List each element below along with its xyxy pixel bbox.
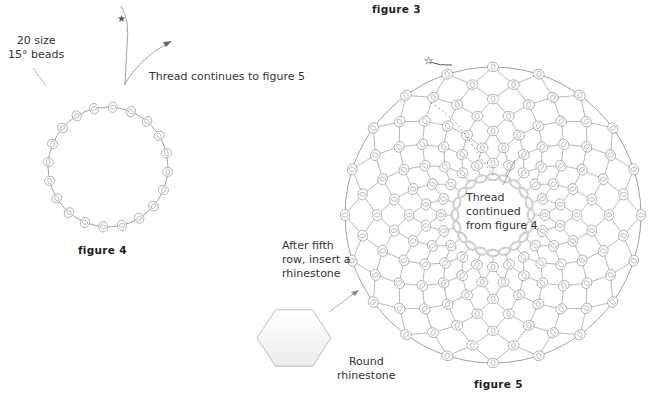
figure-5-bead xyxy=(535,140,550,154)
figure-5-bead xyxy=(546,326,560,340)
figure-5-bead xyxy=(579,301,594,316)
round-rhinestone-label: Round rhinestone xyxy=(337,355,396,383)
figure-4-bead xyxy=(79,216,91,229)
figure-5-bead xyxy=(547,177,561,191)
figure-5-bead xyxy=(597,172,610,186)
arrowhead-icon xyxy=(163,41,172,47)
figure-5-bead xyxy=(392,276,406,291)
figure-4-bead xyxy=(89,103,100,115)
rhinestone-arrow xyxy=(329,292,356,312)
figure-5-bead xyxy=(440,68,454,81)
figure-5-bead xyxy=(460,289,474,302)
figure-4-bead xyxy=(50,192,63,205)
figure-5-bead xyxy=(392,301,407,316)
figure-5-bead xyxy=(444,238,458,253)
figure-5-bead xyxy=(487,126,498,136)
figure-5-bead xyxy=(376,244,389,258)
thread-continues-label: Thread continues to figure 5 xyxy=(149,70,305,84)
figure-5-bead xyxy=(366,295,380,310)
figure-5-bead xyxy=(487,158,498,168)
figure-5-bead xyxy=(517,148,531,162)
figure-5-bead xyxy=(397,162,411,176)
figure-5-bead xyxy=(487,326,498,336)
figure-3-caption: figure 3 xyxy=(372,3,421,15)
figure-4-bead xyxy=(70,109,83,122)
figure-5-bead xyxy=(444,177,458,192)
figure-5-bead xyxy=(554,302,569,316)
figure-5-bead xyxy=(450,319,464,332)
figure-4-bead xyxy=(133,211,146,224)
figure-5-bead xyxy=(502,258,516,271)
figure-5-bead xyxy=(426,91,440,105)
figure-4-bead xyxy=(152,129,165,142)
figure-5-bead xyxy=(512,129,526,142)
inner-ring-bead xyxy=(475,246,487,255)
figure-5-bead xyxy=(572,209,582,220)
figure-5-bead xyxy=(455,166,470,180)
inner-ring-bead xyxy=(452,221,461,233)
bead-label-leader xyxy=(33,68,46,86)
figure-5-bead xyxy=(547,239,561,253)
insert-rhinestone-label: After fifth row, insert a rhinestone xyxy=(282,239,351,281)
figure-4-bead xyxy=(98,221,108,232)
figure-5-bead xyxy=(470,258,484,271)
figure-5-bead xyxy=(536,224,549,238)
figure-5-bead xyxy=(554,257,568,272)
figure-5-bead xyxy=(346,162,359,176)
figure-4-bead xyxy=(43,157,54,167)
figure-5-bead xyxy=(604,148,618,162)
figure-4-bead xyxy=(162,167,173,177)
figure-5-bead xyxy=(426,177,440,191)
star-icon: ★ xyxy=(117,13,126,24)
figure-5-bead xyxy=(573,88,588,102)
figure-5-bead xyxy=(517,269,531,283)
figure-5-bead xyxy=(417,302,432,316)
figure-4-bead xyxy=(44,175,56,186)
figure-5-bead xyxy=(556,278,571,293)
bead-count-label: 20 size 15° beads xyxy=(8,34,64,62)
inner-ring-bead xyxy=(488,250,499,256)
figure-5-bead xyxy=(597,244,610,258)
figure-5-bead xyxy=(415,278,430,293)
figure-5-bead xyxy=(487,262,498,272)
inner-ring-bead xyxy=(499,246,511,255)
figure-4-bead xyxy=(116,219,127,231)
figure-4-bead xyxy=(108,102,118,113)
figure-5-bead xyxy=(573,328,588,342)
figure-5-caption: figure 5 xyxy=(474,378,523,390)
figure-5-bead xyxy=(528,238,542,253)
figure-5-bead xyxy=(399,328,414,342)
figure-5-bead xyxy=(418,257,432,272)
figure-5-bead xyxy=(556,137,571,152)
figure-5-bead xyxy=(606,121,620,136)
figure-5-bead xyxy=(554,114,569,128)
figure-4-bead xyxy=(160,148,172,159)
round-rhinestone-hexagon xyxy=(257,310,331,366)
figure-5-bead xyxy=(534,160,549,175)
figure-5-bead xyxy=(579,114,594,129)
figure-5-bead xyxy=(418,158,432,173)
star-outline-icon: ★ xyxy=(424,55,433,66)
figure-5-bead xyxy=(502,159,516,172)
figure-5-bead xyxy=(604,268,618,282)
figure-4-bead xyxy=(46,138,59,150)
figure-5-bead xyxy=(437,224,450,238)
figure-5-bead xyxy=(455,269,469,283)
figure-5-bead xyxy=(455,250,470,264)
figure-5-bead xyxy=(487,94,498,104)
figure-5-bead xyxy=(575,253,589,267)
figure-5-bead xyxy=(438,160,453,175)
figure-5-bead xyxy=(534,256,549,271)
figure-5-bead xyxy=(440,119,454,133)
figure-5-bead xyxy=(436,209,446,220)
figure-5-bead xyxy=(426,239,440,253)
figure-5-bead xyxy=(487,294,498,304)
beading-diagram-canvas: ★★ xyxy=(0,0,653,397)
figure-5-bead xyxy=(450,98,464,111)
figure-5-bead xyxy=(567,234,580,248)
figure-5-bead xyxy=(440,349,454,362)
figure-5-bead xyxy=(437,192,450,206)
figure-5-bead xyxy=(535,276,550,290)
figure-5-bead xyxy=(376,172,389,186)
figure-5-bead xyxy=(522,98,536,111)
